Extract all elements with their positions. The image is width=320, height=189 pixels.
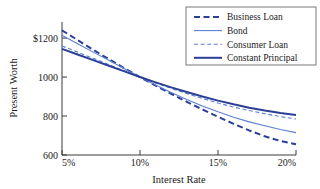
legend-label: Constant Principal bbox=[227, 53, 298, 63]
legend-label: Bond bbox=[227, 26, 248, 36]
legend-label: Consumer Loan bbox=[227, 40, 288, 50]
y-tick-label: 800 bbox=[43, 111, 58, 122]
x-tick-label: 5% bbox=[62, 157, 75, 168]
x-axis-title: Interest Rate bbox=[152, 174, 206, 185]
y-tick-label: 1000 bbox=[38, 72, 58, 83]
y-tick-label: 600 bbox=[43, 150, 58, 161]
present-worth-line-chart: $1200 1000 800 600 5% 10% 15% 20% Intere… bbox=[0, 0, 320, 189]
x-tick-label: 15% bbox=[209, 157, 227, 168]
y-axis-title: Present Worth bbox=[8, 58, 19, 118]
chart-container: $1200 1000 800 600 5% 10% 15% 20% Intere… bbox=[0, 0, 320, 189]
chart-legend: Business LoanBondConsumer LoanConstant P… bbox=[186, 7, 316, 65]
x-tick-label: 20% bbox=[278, 157, 296, 168]
y-tick-label: $1200 bbox=[33, 33, 58, 44]
legend-label: Business Loan bbox=[227, 12, 283, 22]
x-tick-label: 10% bbox=[131, 157, 149, 168]
